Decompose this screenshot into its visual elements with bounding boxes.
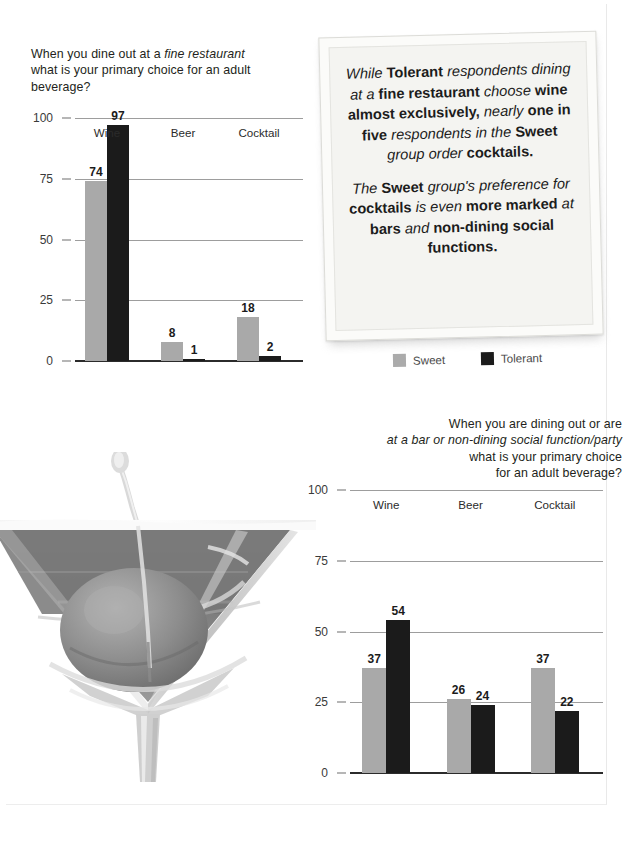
bar-beer-sweet (161, 342, 183, 361)
callout-paragraph-2: The Sweet group's preference for cocktai… (347, 173, 577, 261)
y-axis-label: 25 (19, 293, 53, 307)
y-axis-label: 0 (294, 766, 328, 780)
bar-value-wine-tolerant: 97 (111, 109, 124, 123)
y-axis-label: 75 (19, 172, 53, 186)
y-axis-label: 100 (19, 111, 53, 125)
bar-cocktail-sweet (237, 317, 259, 361)
plot-area-bar-or-social-function: 02550751003754Wine2624Beer3722Cocktail (350, 490, 603, 773)
bar-value-beer-tolerant: 1 (191, 343, 198, 357)
chart-title-bar-or-social-function: When you are dining out or areat a bar o… (306, 416, 622, 482)
bar-value-cocktail-sweet: 37 (536, 652, 549, 666)
y-tick-mark (337, 490, 346, 491)
page-canvas: When you dine out at a fine restaurantwh… (0, 0, 636, 849)
bar-beer-sweet (447, 699, 471, 773)
chart-fine-restaurant: When you dine out at a fine restaurantwh… (0, 40, 320, 380)
callout-inner: While Tolerant respondents dining at a f… (329, 41, 594, 331)
legend-swatch-sweet-icon (393, 354, 406, 367)
gridline (75, 118, 303, 119)
y-axis-label: 50 (19, 233, 53, 247)
bar-wine-tolerant (107, 125, 129, 361)
y-tick-mark (337, 560, 346, 561)
bar-cocktail-sweet (531, 668, 555, 773)
martini-glass-photo (0, 452, 316, 797)
y-tick-mark (337, 702, 346, 703)
y-axis-label: 0 (19, 354, 53, 368)
y-tick-mark (62, 118, 71, 119)
y-tick-mark (62, 361, 71, 362)
bar-value-wine-sweet: 74 (89, 165, 102, 179)
plot-area-fine-restaurant: 02550751007497Wine81Beer182Cocktail (75, 118, 303, 361)
bar-value-beer-sweet: 26 (452, 683, 465, 697)
bar-value-cocktail-tolerant: 22 (560, 695, 573, 709)
chart-legend: Sweet Tolerant (393, 350, 593, 372)
bar-value-beer-tolerant: 24 (476, 689, 489, 703)
callout-card: While Tolerant respondents dining at a f… (318, 30, 614, 350)
bar-value-cocktail-tolerant: 2 (267, 340, 274, 354)
legend-item-sweet: Sweet (393, 353, 445, 367)
bar-cocktail-tolerant (259, 356, 281, 361)
legend-item-tolerant: Tolerant (481, 351, 543, 365)
callout-box: While Tolerant respondents dining at a f… (318, 31, 603, 342)
y-tick-mark (337, 773, 346, 774)
bar-wine-sweet (362, 668, 386, 773)
y-axis-label: 100 (294, 483, 328, 497)
legend-label-tolerant: Tolerant (501, 351, 543, 365)
bar-wine-tolerant (386, 620, 410, 773)
y-axis-label: 25 (294, 695, 328, 709)
martini-glass-icon (0, 452, 316, 797)
bar-value-beer-sweet: 8 (169, 326, 176, 340)
x-axis-label-cocktail: Cocktail (238, 126, 279, 139)
y-axis-label: 75 (294, 554, 328, 568)
bar-value-cocktail-sweet: 18 (241, 301, 254, 315)
legend-label-sweet: Sweet (413, 353, 445, 367)
x-axis-label-wine: Wine (373, 498, 399, 511)
chart-bar-or-social-function: When you are dining out or areat a bar o… (300, 410, 636, 810)
y-tick-mark (62, 300, 71, 301)
x-axis-label-cocktail: Cocktail (534, 498, 575, 511)
x-axis-label-beer: Beer (171, 126, 196, 139)
bar-beer-tolerant (183, 359, 205, 361)
x-axis-label-beer: Beer (458, 498, 483, 511)
gridline (350, 490, 603, 491)
y-tick-mark (62, 178, 71, 179)
legend-swatch-tolerant-icon (481, 352, 494, 365)
callout-paragraph-1: While Tolerant respondents dining at a f… (344, 58, 574, 166)
bar-value-wine-tolerant: 54 (391, 604, 404, 618)
bar-cocktail-tolerant (555, 711, 579, 773)
y-tick-mark (337, 631, 346, 632)
bar-wine-sweet (85, 181, 107, 361)
bar-value-wine-sweet: 37 (367, 652, 380, 666)
x-axis-label-wine: Wine (94, 126, 120, 139)
bar-beer-tolerant (471, 705, 495, 773)
gridline (350, 561, 603, 562)
y-tick-mark (62, 239, 71, 240)
chart-title-fine-restaurant: When you dine out at a fine restaurantwh… (31, 46, 303, 95)
y-axis-label: 50 (294, 625, 328, 639)
